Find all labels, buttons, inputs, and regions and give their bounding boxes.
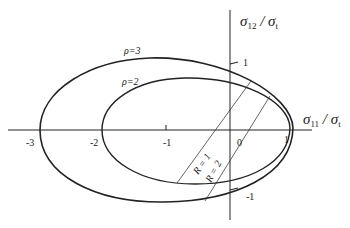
x-tick-label: -1: [163, 137, 171, 148]
x-tick-label: 1: [284, 134, 289, 145]
x-tick-label: -3: [26, 137, 34, 148]
y-tick-1: [230, 62, 238, 64]
x-axis-label: σ11 / σt: [303, 111, 341, 129]
curve-label-rho-2: ρ=2: [121, 76, 139, 87]
x-tick-label: -2: [90, 137, 98, 148]
line-r-2: [205, 96, 270, 201]
yield-surface-diagram: -3 -2 -1 0 1 1 -1 ρ=3 ρ=2 R = 1 R = 2 σ1…: [0, 0, 350, 228]
y-tick-label: 1: [243, 57, 248, 68]
x-tick-label: 0: [237, 137, 242, 148]
y-axis-label: σ12 / σt: [240, 13, 278, 31]
curve-label-rho-3: ρ=3: [123, 45, 141, 56]
y-tick-label: -1: [246, 191, 254, 202]
